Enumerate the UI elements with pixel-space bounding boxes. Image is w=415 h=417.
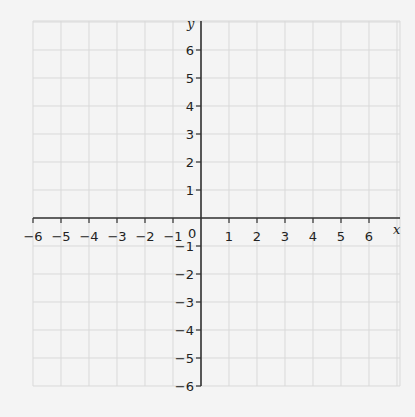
y-tick-label: −2 [175, 267, 194, 282]
y-tick-label: 6 [186, 43, 194, 58]
y-tick-label: −5 [175, 351, 194, 366]
axes [33, 21, 400, 386]
x-tick-label: −5 [51, 229, 70, 244]
y-tick-label: 1 [186, 183, 194, 198]
x-tick-label: 3 [281, 229, 289, 244]
x-tick-label: 1 [225, 229, 233, 244]
grid-lines [33, 21, 400, 386]
y-tick-label: −6 [175, 379, 194, 394]
x-tick-label: −3 [107, 229, 126, 244]
x-tick-label: 5 [337, 229, 345, 244]
y-axis-label: y [186, 16, 195, 31]
y-tick-label: 2 [186, 155, 194, 170]
y-tick-label: −4 [175, 323, 194, 338]
coordinate-plane: −6−5−4−3−2−1123456654321−1−2−3−4−5−6 x y… [0, 0, 415, 417]
y-tick-label: −3 [175, 295, 194, 310]
x-axis-label: x [393, 222, 401, 237]
x-tick-label: −6 [23, 229, 42, 244]
x-tick-label: 2 [253, 229, 261, 244]
y-tick-label: −1 [175, 239, 194, 254]
y-tick-label: 5 [186, 71, 194, 86]
y-tick-label: 4 [186, 99, 194, 114]
x-tick-label: −4 [79, 229, 98, 244]
x-tick-label: −2 [135, 229, 154, 244]
x-tick-label: 4 [309, 229, 317, 244]
origin-label: 0 [188, 226, 196, 241]
y-tick-label: 3 [186, 127, 194, 142]
x-tick-label: 6 [365, 229, 373, 244]
